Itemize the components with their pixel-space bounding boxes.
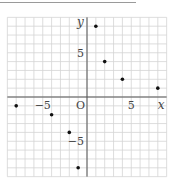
y-tick-label: 5 [77, 47, 84, 60]
axes [7, 17, 166, 176]
data-point [14, 104, 18, 108]
data-point [121, 78, 125, 82]
data-point [68, 131, 72, 135]
x-tick-label: 5 [128, 99, 135, 112]
data-point [156, 86, 160, 90]
origin-label: O [76, 99, 85, 112]
x-tick-label: −5 [35, 99, 51, 112]
data-point [94, 24, 98, 28]
y-axis-label: y [76, 15, 84, 29]
data-point [76, 166, 80, 170]
data-point [103, 60, 107, 64]
x-axis-label: x [158, 98, 165, 112]
y-tick-label: −5 [68, 135, 84, 148]
data-point [50, 113, 54, 117]
scatter-plot: x y O −555−5 [0, 0, 178, 185]
axis-labels: x y O [76, 15, 165, 112]
